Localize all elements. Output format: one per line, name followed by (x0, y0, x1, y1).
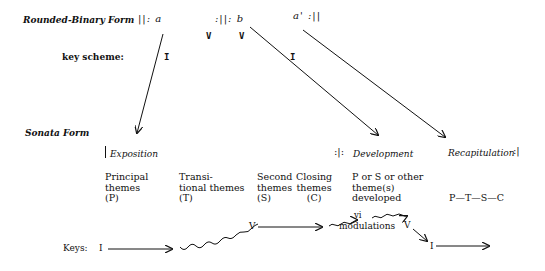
exposition-barline (105, 146, 106, 158)
col-line: developed (352, 193, 423, 204)
key-a-prime: I (290, 53, 295, 62)
column-principal: Principal themes (P) (105, 172, 148, 204)
keys-label: Keys: (63, 244, 88, 253)
key-start-tonic: I (99, 244, 103, 253)
section-b-label: :||: b (215, 14, 244, 24)
key-dominant-2: V (404, 221, 411, 230)
col-line: Closing (296, 172, 332, 183)
col-line: Second (257, 172, 292, 183)
col-line: Transi- (179, 172, 244, 183)
arrow-aprime-to-recap (303, 30, 445, 137)
arrow-b-to-development (250, 27, 378, 135)
rounded-binary-title: Rounded-Binary Form (23, 16, 134, 25)
sonata-title: Sonata Form (25, 129, 89, 138)
column-recapitulation: P—T—S—C (449, 193, 504, 204)
recapitulation-label: Recapitulation (448, 149, 515, 158)
column-development: P or S or other theme(s) developed (352, 172, 423, 204)
exposition-label: Exposition (110, 150, 158, 159)
column-closing: Closing themes (C) (296, 172, 332, 204)
section-a-label: ||: a (138, 14, 162, 24)
col-line: P or S or other (352, 172, 423, 183)
key-scheme-label: key scheme: (62, 53, 124, 62)
b-key-1: V (206, 32, 211, 41)
keys-wavy-to-V2 (372, 214, 407, 218)
col-line: (S) (257, 193, 292, 204)
modulations-label: modulations (339, 222, 395, 231)
keys-wavy-to-V (180, 224, 258, 250)
col-line: P—T—S—C (449, 193, 504, 204)
key-a: I (164, 53, 169, 62)
section-a-prime-label: a' :|| (293, 11, 321, 21)
col-line: (T) (179, 193, 244, 204)
development-repeat-sign: :|: (334, 147, 344, 157)
col-line: Principal (105, 172, 148, 183)
col-line: (C) (296, 193, 332, 204)
keys-arrow-V-to-I (413, 229, 427, 241)
arrow-a-to-exposition (137, 34, 163, 133)
recap-repeat-sign: :| (513, 146, 520, 156)
key-vi: vi (354, 211, 362, 220)
column-second: Second themes (S) (257, 172, 292, 204)
key-dominant: V (249, 222, 256, 231)
development-label: Development (353, 150, 413, 159)
key-tonic-return: I (430, 242, 434, 251)
b-key-2: V (239, 32, 244, 41)
column-transitional: Transi- tional themes (T) (179, 172, 244, 204)
col-line: (P) (105, 193, 148, 204)
